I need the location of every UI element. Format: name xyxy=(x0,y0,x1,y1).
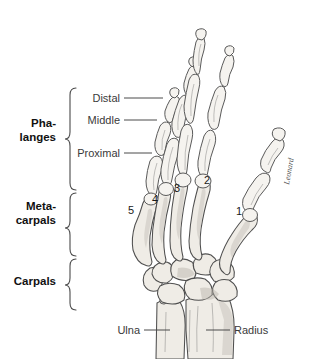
group-label-phalanges-line2: langes xyxy=(20,131,56,143)
label-ulna-text: Ulna xyxy=(117,324,141,336)
group-label-carpals-line1: Carpals xyxy=(14,275,56,287)
label-proximal-text: Proximal xyxy=(77,147,120,159)
digit-number-4: 4 xyxy=(152,193,158,205)
label-distal-text: Distal xyxy=(92,92,120,104)
metacarpal-head-4 xyxy=(159,183,174,196)
group-label-metacarpals-line2: carpals xyxy=(16,214,56,226)
digit-number-5: 5 xyxy=(128,204,134,216)
distal-tuft-3 xyxy=(196,29,206,40)
digit-number-2: 2 xyxy=(204,174,210,186)
hand-skeleton-figure: Pha- langes Meta- carpals Carpals xyxy=(0,0,312,359)
label-radius-text: Radius xyxy=(234,324,269,336)
metacarpal-head-1 xyxy=(243,209,258,222)
group-label-phalanges-line1: Pha- xyxy=(31,117,56,129)
carpal-bone-lunate xyxy=(157,283,184,304)
label-middle-text: Middle xyxy=(88,114,120,126)
digit-number-3: 3 xyxy=(174,182,180,194)
digit-number-1: 1 xyxy=(236,205,242,217)
ulna-bone xyxy=(156,299,185,359)
group-label-metacarpals-line1: Meta- xyxy=(26,200,56,212)
hand-skeleton-illustration: Pha- langes Meta- carpals Carpals xyxy=(0,0,312,359)
group-label-carpals: Carpals xyxy=(14,275,56,287)
